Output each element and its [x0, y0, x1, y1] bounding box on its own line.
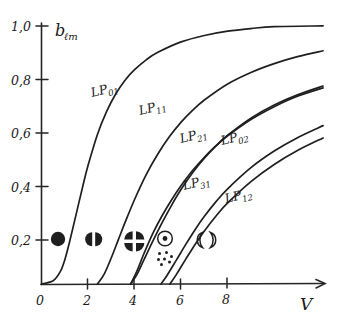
y-tick-label-0.2: 0,2: [11, 233, 31, 248]
lp-mode-dispersion-figure: 1,0 0,8 0,6 0,4 0,2 0 2 4 6 8 b ℓm V: [0, 0, 339, 324]
curves-group: [42, 26, 324, 284]
x-tick-label-8: 8: [222, 292, 230, 307]
x-tick-label-0: 0: [36, 293, 44, 308]
curve-label-lp31: LP31: [180, 172, 212, 196]
curve-label-lp11: LP11: [136, 97, 168, 121]
y-axis-label-subscript: ℓm: [64, 31, 78, 42]
lp31-mode-pattern-icon: [157, 251, 173, 266]
lp21-mode-pattern-icon: [124, 231, 144, 251]
x-axis-label: V: [300, 294, 314, 314]
curve-label-lp12: LP12: [222, 185, 254, 209]
y-tick-label-1.0: 1,0: [11, 19, 31, 34]
curve-label-lp02: LP02: [218, 127, 250, 151]
x-axis-line: [41, 284, 324, 285]
lp11-mode-pattern-icon: [85, 232, 102, 246]
curve-lp01: [42, 26, 324, 284]
y-tick-label-0.4: 0,4: [11, 180, 31, 195]
x-tick-label-4: 4: [128, 293, 137, 308]
y-tick-labels: 1,0 0,8 0,6 0,4 0,2: [11, 19, 31, 248]
axis-names: b ℓm V: [55, 21, 314, 314]
y-tick-label-0.6: 0,6: [11, 126, 31, 141]
x-tick-label-6: 6: [176, 293, 184, 308]
curve-label-lp01: LP01: [88, 79, 120, 103]
plot-canvas: 1,0 0,8 0,6 0,4 0,2 0 2 4 6 8 b ℓm V: [0, 0, 339, 324]
x-tick-labels: 0 2 4 6 8: [36, 292, 230, 308]
lp01-mode-pattern-icon: [51, 232, 65, 246]
curve-label-lp21: LP21: [177, 125, 209, 149]
y-tick-label-0.8: 0,8: [11, 73, 31, 88]
lp12-mode-pattern-icon: [197, 233, 215, 248]
lp02-mode-pattern-icon: [158, 231, 173, 246]
x-tick-label-2: 2: [82, 293, 91, 308]
curve-lp12: [170, 138, 323, 284]
